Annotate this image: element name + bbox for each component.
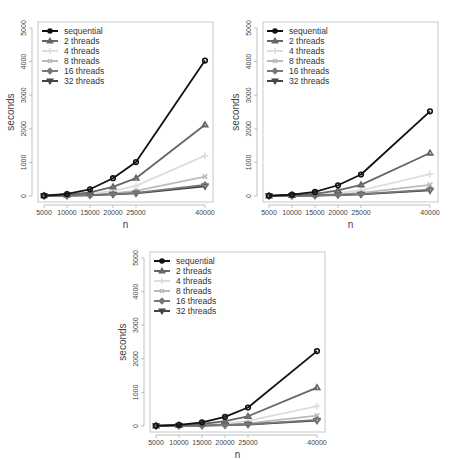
plus-marker-icon (202, 152, 209, 159)
chart-panel-3: 010002000300040005000seconds500010000150… (112, 230, 337, 460)
legend-label: 32 threads (64, 76, 104, 86)
x-axis-label: n (235, 449, 241, 460)
x-tick-label: 15000 (305, 209, 325, 216)
legend-item: 32 threads (42, 76, 104, 86)
circle-marker-icon (48, 29, 52, 33)
legend-item: 2 threads (42, 36, 99, 46)
y-axis: 010002000300040005000 (132, 250, 144, 428)
plus-marker-icon (159, 278, 165, 284)
legend-label: 4 threads (176, 276, 211, 286)
x-tick-label: 25000 (238, 439, 258, 446)
legend-label: sequential (289, 26, 328, 36)
x-tick-label: 25000 (351, 209, 371, 216)
legend-item: 8 threads (267, 56, 324, 66)
line-chart: 010002000300040005000seconds500010000150… (112, 230, 337, 460)
x-tick-label: 40000 (420, 209, 440, 216)
x-tick-label: 20000 (328, 209, 348, 216)
legend: sequential2 threads4 threads8 threads16 … (267, 26, 329, 86)
legend-item: 32 threads (154, 306, 216, 316)
legend-item: 2 threads (154, 266, 211, 276)
legend-item: sequential (267, 26, 328, 36)
y-axis-label: seconds (5, 93, 16, 130)
x-axis: 50001000015000200002500040000 (148, 435, 327, 446)
legend: sequential2 threads4 threads8 threads16 … (154, 256, 216, 316)
y-tick-label: 1000 (245, 155, 252, 171)
y-tick-label: 1000 (132, 385, 139, 401)
y-tick-label: 5000 (20, 20, 27, 36)
legend-label: sequential (176, 256, 215, 266)
y-axis: 010002000300040005000 (20, 20, 32, 198)
legend-label: 2 threads (64, 36, 99, 46)
legend-item: 16 threads (42, 66, 104, 76)
y-tick-label: 4000 (20, 54, 27, 70)
series-sequential (267, 109, 433, 198)
legend-item: 4 threads (154, 276, 211, 286)
y-axis-label: seconds (117, 323, 128, 360)
y-tick-label: 3000 (245, 87, 252, 103)
chart-panel-2: 010002000300040005000seconds500010000150… (225, 0, 450, 230)
legend-item: 4 threads (267, 46, 324, 56)
line-chart: 010002000300040005000seconds500010000150… (225, 0, 450, 230)
circle-marker-icon (273, 29, 277, 33)
plus-marker-icon (133, 183, 140, 190)
legend-label: 4 threads (289, 46, 324, 56)
x-tick-label: 5000 (36, 209, 52, 216)
legend-label: 8 threads (289, 56, 324, 66)
triangle-marker-icon (202, 122, 208, 127)
circle-marker-icon (160, 259, 164, 263)
x-tick-label: 5000 (261, 209, 277, 216)
x-axis-label: n (348, 219, 354, 230)
plus-marker-icon (272, 48, 278, 54)
series-sequential (154, 349, 320, 428)
x-axis: 50001000015000200002500040000 (261, 205, 440, 216)
x-tick-label: 40000 (195, 209, 215, 216)
x-tick-label: 5000 (148, 439, 164, 446)
legend-item: 2 threads (267, 36, 324, 46)
legend-label: 16 threads (176, 296, 216, 306)
legend-item: 16 threads (267, 66, 329, 76)
x-tick-label: 15000 (80, 209, 100, 216)
triangle-marker-icon (427, 150, 433, 155)
legend-item: 32 threads (267, 76, 329, 86)
legend-item: sequential (154, 256, 215, 266)
x-tick-label: 20000 (103, 209, 123, 216)
series-2-threads (41, 122, 208, 198)
y-axis: 010002000300040005000 (245, 20, 257, 198)
y-tick-label: 0 (132, 424, 139, 428)
plus-marker-icon (427, 171, 434, 178)
line-chart: 010002000300040005000seconds500010000150… (0, 0, 225, 230)
x-axis-label: n (123, 219, 129, 230)
legend-label: 32 threads (176, 306, 216, 316)
legend-item: 4 threads (42, 46, 99, 56)
legend-label: sequential (64, 26, 103, 36)
y-tick-label: 2000 (245, 121, 252, 137)
triangle-marker-icon (314, 385, 320, 390)
y-axis-label: seconds (230, 93, 241, 130)
legend-item: 8 threads (42, 56, 99, 66)
plus-marker-icon (314, 403, 321, 410)
legend-label: 16 threads (289, 66, 329, 76)
x-axis: 50001000015000200002500040000 (36, 205, 215, 216)
x-tick-label: 10000 (169, 439, 189, 446)
legend-item: sequential (42, 26, 103, 36)
y-tick-label: 3000 (132, 317, 139, 333)
y-tick-label: 5000 (132, 250, 139, 266)
x-tick-label: 25000 (126, 209, 146, 216)
legend-item: 16 threads (154, 296, 216, 306)
y-tick-label: 0 (245, 194, 252, 198)
x-tick-label: 15000 (192, 439, 212, 446)
legend-label: 2 threads (289, 36, 324, 46)
legend-label: 32 threads (289, 76, 329, 86)
legend-label: 8 threads (176, 286, 211, 296)
y-tick-label: 4000 (132, 284, 139, 300)
y-tick-label: 4000 (245, 54, 252, 70)
x-tick-label: 20000 (215, 439, 235, 446)
legend-label: 2 threads (176, 266, 211, 276)
x-tick-label: 10000 (282, 209, 302, 216)
chart-panel-1: 010002000300040005000seconds500010000150… (0, 0, 225, 230)
legend-label: 8 threads (64, 56, 99, 66)
y-tick-label: 5000 (245, 20, 252, 36)
y-tick-label: 2000 (20, 121, 27, 137)
legend-item: 8 threads (154, 286, 211, 296)
x-tick-label: 40000 (307, 439, 327, 446)
